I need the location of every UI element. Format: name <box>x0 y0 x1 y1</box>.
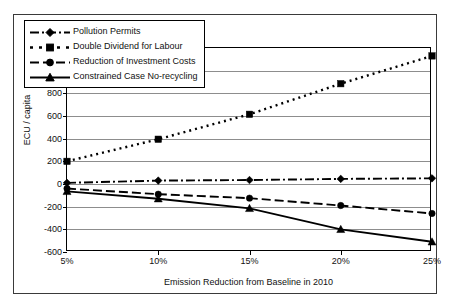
series-reduction-of-investment-costs <box>64 185 435 216</box>
legend-key-diamond-icon <box>29 25 71 38</box>
data-point-marker <box>155 136 161 142</box>
legend-item: Double Dividend for Labour <box>29 39 198 54</box>
y-axis-tick-label: -400 <box>44 225 62 234</box>
data-point-marker <box>338 202 344 208</box>
plot-wrapper: -600-400-200020040060080010001200 5%10%1… <box>14 15 438 295</box>
legend-key-square-icon <box>29 40 71 53</box>
data-point-marker <box>64 158 70 164</box>
y-axis-tick-label: -200 <box>44 203 62 212</box>
y-axis-tick-label: 600 <box>47 112 62 121</box>
y-axis-tick-label: 0 <box>57 180 62 189</box>
chart-legend: Pollution PermitsDouble Dividend for Lab… <box>24 20 205 88</box>
x-axis-tick-label: 5% <box>60 257 73 266</box>
data-point-marker <box>429 53 435 59</box>
figure-frame: -600-400-200020040060080010001200 5%10%1… <box>13 14 437 294</box>
legend-key-triangle-icon <box>29 70 71 83</box>
x-axis-tick-label: 15% <box>240 257 258 266</box>
series-pollution-permits <box>63 175 436 187</box>
data-point-marker <box>337 175 345 183</box>
data-point-marker <box>246 195 252 201</box>
x-axis-tick-label: 25% <box>423 257 441 266</box>
legend-label: Reduction of Investment Costs <box>71 57 196 66</box>
data-point-marker <box>428 175 436 183</box>
y-axis-tick-label: 400 <box>47 135 62 144</box>
legend-label: Double Dividend for Labour <box>71 42 183 51</box>
x-axis-tick-label: 20% <box>332 257 350 266</box>
y-axis-tick-label: 800 <box>47 89 62 98</box>
legend-label: Constrained Case No-recycling <box>71 72 198 81</box>
data-point-marker <box>154 177 162 185</box>
legend-label: Pollution Permits <box>71 27 141 36</box>
legend-item: Reduction of Investment Costs <box>29 54 198 69</box>
y-axis-tick-label: -600 <box>44 248 62 257</box>
data-point-marker <box>429 210 435 216</box>
data-point-marker <box>246 176 254 184</box>
legend-item: Pollution Permits <box>29 24 198 39</box>
data-point-marker <box>338 81 344 87</box>
x-axis-tick-label: 10% <box>149 257 167 266</box>
legend-key-circle-icon <box>29 55 71 68</box>
y-axis-tick-label: 200 <box>47 157 62 166</box>
data-point-marker <box>246 111 252 117</box>
legend-item: Constrained Case No-recycling <box>29 69 198 84</box>
y-axis-tick-mark <box>63 252 67 253</box>
x-axis-title: Emission Reduction from Baseline in 2010 <box>66 277 431 287</box>
